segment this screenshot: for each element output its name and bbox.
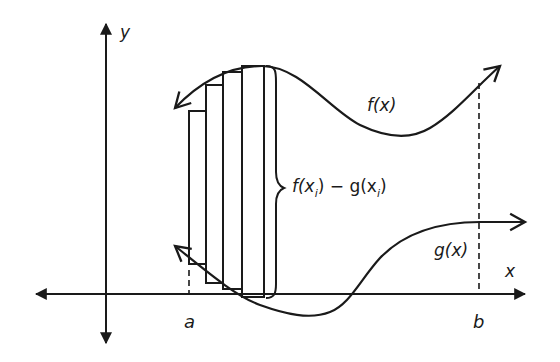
curve-f-label: f(x) [367,95,396,115]
difference-label: f(xi) − g(xi) [292,176,387,200]
curve-g [175,222,525,316]
bound-b-label: b [473,311,484,332]
bound-a-label: a [184,311,195,332]
area-between-curves-diagram: y x a b f(x) g(x) f(xi) − g(xi) [0,0,560,362]
rectangle-3 [223,72,242,289]
y-axis-label: y [119,22,131,42]
rectangle-1 [189,111,206,264]
rectangle-4 [242,66,264,297]
curve-g-label: g(x) [434,240,468,260]
rectangle-2 [206,85,223,283]
x-axis-label: x [504,261,516,281]
curly-brace [266,66,284,298]
approximating-rectangles [189,66,264,297]
